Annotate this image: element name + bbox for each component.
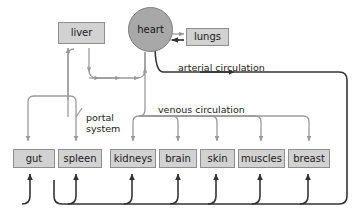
venous-and-pulmonary-vessels bbox=[28, 34, 309, 141]
artery-to-spleen bbox=[68, 174, 76, 204]
spleen-label: spleen bbox=[64, 154, 97, 164]
organ-box-breast[interactable]: breast bbox=[288, 149, 330, 168]
vessel-breast-to-vena-cava bbox=[139, 116, 309, 141]
organ-box-brain[interactable]: brain bbox=[159, 149, 197, 168]
arterial-circulation-label: arterial circulation bbox=[178, 62, 265, 73]
artery-to-skin bbox=[208, 174, 216, 204]
vessel-kidneys-to-vena-cava bbox=[133, 116, 139, 141]
organ-box-muscles[interactable]: muscles bbox=[238, 149, 285, 168]
venous-circulation-label: venous circulation bbox=[158, 104, 245, 115]
circulatory-system-diagram: heart lungs liver gut spleen kidneys bra… bbox=[0, 0, 362, 215]
organ-box-lungs[interactable]: lungs bbox=[186, 28, 229, 46]
organ-box-gut[interactable]: gut bbox=[13, 149, 55, 168]
skin-label: skin bbox=[207, 154, 227, 164]
vessel-aorta-tail bbox=[54, 180, 62, 204]
artery-to-brain bbox=[170, 174, 178, 204]
liver-label: liver bbox=[71, 28, 93, 38]
gut-label: gut bbox=[26, 154, 43, 164]
vessel-portal-trunk bbox=[68, 49, 74, 117]
kidneys-label: kidneys bbox=[114, 154, 153, 164]
organ-box-kidneys[interactable]: kidneys bbox=[110, 149, 156, 168]
vessel-muscles-to-vena-cava bbox=[139, 116, 261, 141]
brain-label: brain bbox=[165, 154, 191, 164]
artery-to-breast bbox=[300, 174, 308, 204]
organ-box-skin[interactable]: skin bbox=[200, 149, 235, 168]
heart-node[interactable]: heart bbox=[128, 7, 173, 52]
lungs-label: lungs bbox=[194, 32, 221, 42]
artery-to-muscles bbox=[252, 174, 260, 204]
muscles-label: muscles bbox=[241, 154, 282, 164]
vessel-gut-to-portal bbox=[28, 96, 76, 141]
portal-system-label: portal system bbox=[86, 112, 120, 134]
portal-label-leader bbox=[76, 108, 82, 117]
breast-label: breast bbox=[293, 154, 325, 164]
vessel-vena-cava-trunk bbox=[139, 52, 145, 116]
vessel-hepatic-vein-to-heart bbox=[89, 48, 145, 78]
organ-box-liver[interactable]: liver bbox=[58, 22, 105, 44]
heart-label: heart bbox=[137, 25, 164, 35]
artery-to-kidneys bbox=[124, 174, 132, 204]
organ-box-spleen[interactable]: spleen bbox=[58, 149, 102, 168]
vessel-brain-to-vena-cava bbox=[139, 116, 178, 141]
artery-to-gut bbox=[22, 174, 30, 204]
